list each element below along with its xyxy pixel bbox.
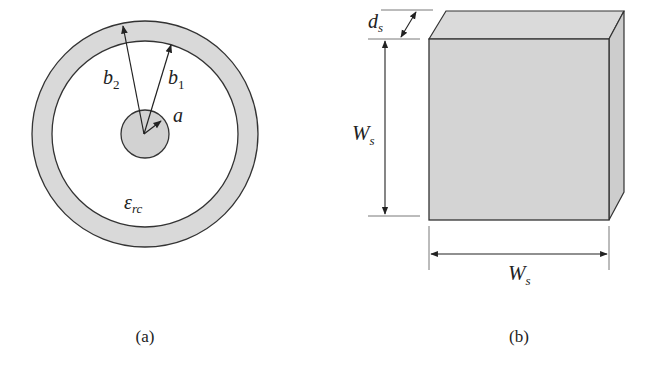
panel-b-slab: ds Ws Ws (b) [352, 10, 624, 346]
panel-a-coax-cross-section: b2 b1 a εrc (a) [32, 21, 258, 346]
label-ds: ds [368, 10, 383, 35]
slab-top-face [429, 11, 624, 39]
label-ws-width: Ws [508, 261, 531, 288]
caption-b: (b) [509, 327, 529, 346]
slab-front-face [429, 39, 609, 220]
figure-canvas: b2 b1 a εrc (a) ds Ws [0, 0, 658, 368]
ds-dimension-arrow [401, 12, 416, 37]
slab-side-face [609, 11, 624, 220]
label-a: a [173, 104, 183, 126]
label-ws-height: Ws [352, 121, 375, 148]
caption-a: (a) [136, 327, 155, 346]
inner-conductor [121, 110, 169, 158]
